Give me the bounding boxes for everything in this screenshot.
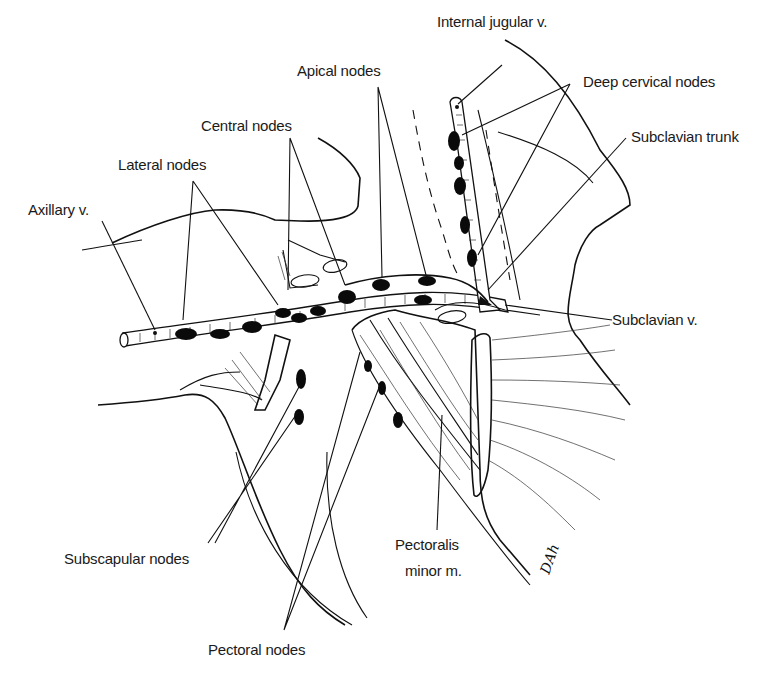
label-subclavian-v: Subclavian v. xyxy=(612,311,698,328)
deep-cervical-node xyxy=(454,156,464,170)
central-node xyxy=(338,290,356,304)
artist-signature: DAh xyxy=(536,542,562,577)
label-axillary-v: Axillary v. xyxy=(28,201,89,218)
apical-node xyxy=(418,276,436,286)
deep-cervical-node xyxy=(454,177,466,195)
label-deep-cervical-nodes: Deep cervical nodes xyxy=(583,73,715,90)
label-central-nodes: Central nodes xyxy=(201,117,292,134)
central-node xyxy=(275,308,291,318)
pectoral-node xyxy=(393,412,403,428)
label-lateral-nodes: Lateral nodes xyxy=(118,156,206,173)
label-pectoralis-minor-line1: Pectoralis xyxy=(395,536,459,553)
lateral-node xyxy=(175,328,197,340)
label-internal-jugular-v: Internal jugular v. xyxy=(437,13,547,30)
central-node xyxy=(291,313,307,323)
label-subclavian-trunk: Subclavian trunk xyxy=(631,128,739,145)
axillary-vein xyxy=(120,292,508,347)
lymph-nodes xyxy=(175,131,477,428)
axilla-illustration: DAh xyxy=(0,0,779,684)
label-subscapular-nodes: Subscapular nodes xyxy=(64,550,189,567)
deep-cervical-node xyxy=(460,216,470,234)
central-node xyxy=(310,306,326,316)
label-pectoral-nodes: Pectoral nodes xyxy=(208,641,305,658)
deep-cervical-node xyxy=(467,249,477,267)
pectoral-node xyxy=(364,360,372,372)
label-pectoralis-minor-line2: minor m. xyxy=(405,562,462,579)
subscapular-node xyxy=(296,369,306,389)
deep-cervical-node xyxy=(448,131,460,151)
apical-node xyxy=(372,279,390,291)
subscapular-node xyxy=(294,409,304,425)
lateral-node xyxy=(242,321,262,333)
label-apical-nodes: Apical nodes xyxy=(297,62,381,79)
apical-node xyxy=(414,295,432,305)
lateral-node xyxy=(210,329,230,339)
